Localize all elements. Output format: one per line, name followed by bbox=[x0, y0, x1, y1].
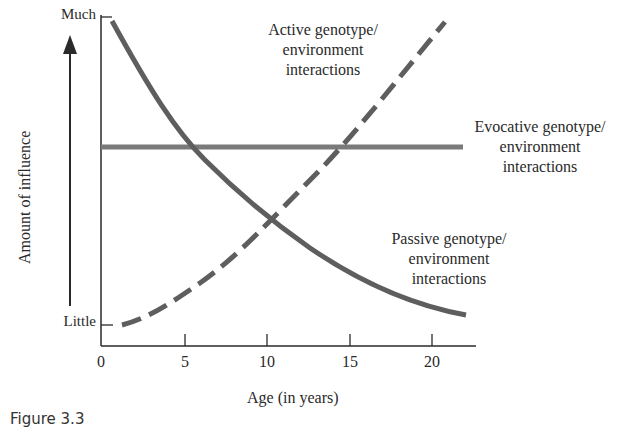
x-tick-label-0: 0 bbox=[86, 353, 116, 371]
influence-arrow-head-icon bbox=[63, 35, 77, 54]
label-passive-line3: interactions bbox=[374, 269, 524, 289]
label-evocative-line1: Evocative genotype/ bbox=[460, 117, 620, 137]
y-level-much: Much bbox=[36, 6, 96, 23]
figure-caption: Figure 3.3 bbox=[10, 410, 84, 428]
x-axis-title: Age (in years) bbox=[247, 389, 339, 407]
label-evocative-line3: interactions bbox=[460, 157, 620, 177]
x-tick-label-15: 15 bbox=[335, 353, 365, 371]
label-passive-line2: environment bbox=[374, 249, 524, 269]
y-level-little: Little bbox=[36, 313, 96, 330]
label-passive: Passive genotype/ environment interactio… bbox=[374, 229, 524, 289]
y-axis-title: Amount of influence bbox=[16, 131, 34, 264]
x-tick-label-10: 10 bbox=[252, 353, 282, 371]
x-tick-label-5: 5 bbox=[170, 353, 200, 371]
label-evocative-line2: environment bbox=[460, 137, 620, 157]
x-tick-label-20: 20 bbox=[417, 353, 447, 371]
label-passive-line1: Passive genotype/ bbox=[374, 229, 524, 249]
label-active-line1: Active genotype/ bbox=[258, 20, 388, 40]
label-active-line3: interactions bbox=[258, 60, 388, 80]
label-evocative: Evocative genotype/ environment interact… bbox=[460, 117, 620, 177]
label-active: Active genotype/ environment interaction… bbox=[258, 20, 388, 80]
label-active-line2: environment bbox=[258, 40, 388, 60]
